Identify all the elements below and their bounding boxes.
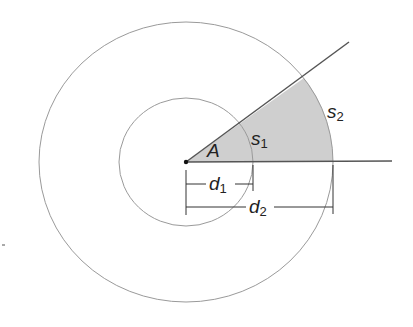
center-point <box>184 160 188 164</box>
concentric-circles-diagram: A s1 s2 d1 d2 <box>0 0 413 327</box>
dist-inner-label: d1 <box>209 173 227 196</box>
angle-label: A <box>206 140 220 161</box>
dist-outer-label: d2 <box>249 196 267 219</box>
arc-outer-label: s2 <box>327 101 344 124</box>
horizontal-ray <box>186 161 392 162</box>
